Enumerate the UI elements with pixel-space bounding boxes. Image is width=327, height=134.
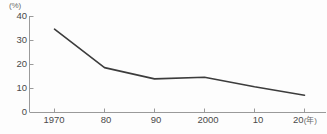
plot-area (0, 0, 327, 134)
plot-svg (0, 0, 327, 134)
y-axis-ticks (30, 17, 34, 89)
line-chart-figure: (%) 40 30 20 10 0 1970 80 90 2000 10 20(… (0, 0, 327, 134)
x-axis-ticks (55, 109, 305, 113)
data-series-line (55, 29, 305, 95)
